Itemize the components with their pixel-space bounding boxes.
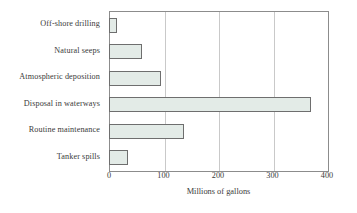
bars-layer — [110, 12, 328, 171]
x-tick-label: 200 — [212, 172, 224, 180]
horizontal-bar-chart: Off-shore drilling Natural seeps Atmosph… — [0, 0, 357, 213]
bar-disposal-in-waterways — [109, 97, 311, 112]
bar-row — [110, 92, 328, 119]
bar-row — [110, 145, 328, 172]
category-label-text: Disposal in waterways — [24, 100, 100, 108]
bar-natural-seeps — [109, 44, 142, 59]
bar-routine-maintenance — [109, 124, 184, 139]
category-label-natural-seeps: Natural seeps — [0, 38, 105, 65]
x-tick-label: 300 — [266, 172, 278, 180]
category-label-text: Tanker spills — [57, 153, 100, 161]
category-label-atmospheric-deposition: Atmospheric deposition — [0, 64, 105, 91]
category-label-off-shore-drilling: Off-shore drilling — [0, 11, 105, 38]
bar-off-shore-drilling — [109, 18, 117, 33]
x-tick-label: 400 — [321, 172, 333, 180]
plot-area — [109, 11, 329, 172]
bar-row — [110, 65, 328, 92]
x-tick-label: 0 — [107, 172, 111, 180]
category-label-text: Off-shore drilling — [40, 20, 100, 28]
category-label-disposal-in-waterways: Disposal in waterways — [0, 91, 105, 118]
category-label-routine-maintenance: Routine maintenance — [0, 117, 105, 144]
category-label-text: Routine maintenance — [29, 126, 100, 134]
x-axis-tick-labels: 0100200300400 — [109, 172, 328, 184]
bar-row — [110, 118, 328, 145]
category-axis: Off-shore drilling Natural seeps Atmosph… — [0, 11, 105, 170]
bar-row — [110, 12, 328, 39]
category-label-tanker-spills: Tanker spills — [0, 144, 105, 171]
bar-atmospheric-deposition — [109, 71, 161, 86]
bar-row — [110, 39, 328, 66]
x-tick-label: 100 — [157, 172, 169, 180]
category-label-text: Natural seeps — [54, 47, 100, 55]
x-axis-title: Millions of gallons — [109, 188, 328, 196]
bar-tanker-spills — [109, 150, 128, 165]
category-label-text: Atmospheric deposition — [19, 73, 100, 81]
